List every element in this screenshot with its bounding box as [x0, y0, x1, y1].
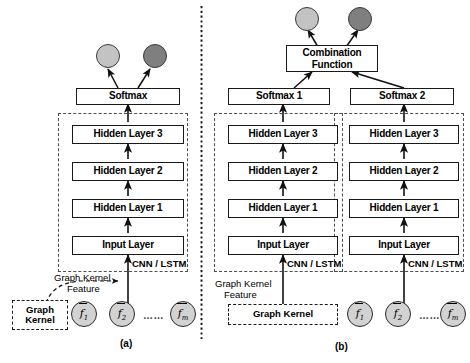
- feature-glyph-2-b: f2: [394, 307, 403, 322]
- hidden-layer-3-label-b-right: Hidden Layer 3: [370, 129, 439, 140]
- hidden-layer-3-box-b-right[interactable]: Hidden Layer 3: [349, 125, 459, 144]
- hidden-layer-2-label-a: Hidden Layer 2: [94, 166, 163, 177]
- arrow-b-softmax2-to-comb: [352, 72, 404, 88]
- feature-circle-2-a[interactable]: f2: [109, 301, 135, 327]
- feature-subscript-m-b: m: [452, 314, 459, 322]
- input-layer-box-b-left[interactable]: Input Layer: [228, 236, 338, 255]
- hidden-layer-2-label-b-left: Hidden Layer 2: [249, 166, 318, 177]
- graph-kernel-box-b-label: Graph Kernel: [253, 309, 313, 319]
- graph-kernel-feature-label-b-line2: Feature: [224, 289, 257, 300]
- feature-circle-m-a[interactable]: fm: [170, 301, 196, 327]
- tilde-bar-icon: [117, 303, 126, 304]
- hidden-layer-1-label-b-left: Hidden Layer 1: [249, 203, 318, 214]
- feature-subscript-1-a: 1: [84, 314, 88, 322]
- encoder-label-b-left: CNN / LSTM: [287, 258, 341, 269]
- combination-function-label-line1: Combination: [303, 47, 362, 58]
- tilde-bar-icon: [355, 303, 364, 304]
- arrow-b-softmax1-to-comb: [294, 72, 312, 88]
- input-layer-box-b-right[interactable]: Input Layer: [349, 236, 459, 255]
- feature-glyph-1-b: f1: [356, 307, 365, 322]
- softmax-2-label: Softmax 2: [379, 91, 425, 102]
- tilde-bar-icon: [177, 303, 188, 304]
- feature-glyph-2-a: f2: [118, 307, 127, 322]
- hidden-layer-3-label-a: Hidden Layer 3: [94, 129, 163, 140]
- feature-glyph-m-a: fm: [178, 307, 189, 322]
- softmax-1-box[interactable]: Softmax 1: [228, 88, 330, 105]
- hidden-layer-2-box-b-right[interactable]: Hidden Layer 2: [349, 162, 459, 181]
- graph-kernel-box-a-line2: Kernel: [25, 315, 55, 325]
- softmax-box-a[interactable]: Softmax: [76, 88, 180, 105]
- feature-glyph-1-a: f1: [80, 307, 89, 322]
- feature-ellipsis-a: ……: [143, 310, 164, 321]
- graph-kernel-box-a[interactable]: Graph Kernel: [12, 300, 68, 330]
- class-node-light: [96, 44, 120, 68]
- softmax-2-box[interactable]: Softmax 2: [350, 88, 454, 105]
- hidden-layer-1-label-b-right: Hidden Layer 1: [370, 203, 439, 214]
- hidden-layer-1-box-b-right[interactable]: Hidden Layer 1: [349, 199, 459, 218]
- feature-circle-1-b[interactable]: f1: [347, 301, 373, 327]
- input-layer-box-a[interactable]: Input Layer: [72, 236, 184, 255]
- feature-subscript-2-a: 2: [122, 314, 126, 322]
- softmax-1-label: Softmax 1: [256, 91, 302, 102]
- feature-subscript-1-b: 1: [360, 314, 364, 322]
- hidden-layer-3-box-b-left[interactable]: Hidden Layer 3: [228, 125, 338, 144]
- class-node-dark-b: [348, 7, 372, 31]
- figure-root: Softmax Hidden Layer 3 Hidden Layer 2 Hi…: [0, 0, 470, 363]
- caption-a: (a): [120, 338, 132, 349]
- input-layer-label-b-left: Input Layer: [257, 240, 309, 251]
- graph-kernel-feature-label-b-line1: Graph Kernel: [215, 278, 272, 289]
- tilde-bar-icon: [447, 303, 458, 304]
- feature-circle-2-b[interactable]: f2: [385, 301, 411, 327]
- graph-kernel-box-b[interactable]: Graph Kernel: [228, 304, 338, 325]
- tilde-bar-icon: [393, 303, 402, 304]
- feature-circle-1-a[interactable]: f1: [71, 301, 97, 327]
- hidden-layer-3-label-b-left: Hidden Layer 3: [249, 129, 318, 140]
- class-node-dark: [143, 44, 167, 68]
- hidden-layer-1-label-a: Hidden Layer 1: [94, 203, 163, 214]
- feature-subscript-2-b: 2: [398, 314, 402, 322]
- softmax-label-a: Softmax: [109, 91, 147, 102]
- feature-circle-m-b[interactable]: fm: [440, 301, 466, 327]
- hidden-layer-2-box-a[interactable]: Hidden Layer 2: [72, 162, 184, 181]
- input-layer-label-a: Input Layer: [102, 240, 154, 251]
- hidden-layer-2-box-b-left[interactable]: Hidden Layer 2: [228, 162, 338, 181]
- hidden-layer-2-label-b-right: Hidden Layer 2: [370, 166, 439, 177]
- input-layer-label-b-right: Input Layer: [378, 240, 430, 251]
- feature-glyph-m-b: fm: [448, 307, 459, 322]
- hidden-layer-1-box-b-left[interactable]: Hidden Layer 1: [228, 199, 338, 218]
- tilde-bar-icon: [79, 303, 88, 304]
- combination-function-box[interactable]: Combination Function: [286, 45, 378, 72]
- arrow-a-softmax-to-node-dark: [138, 69, 150, 88]
- class-node-light-b: [295, 7, 319, 31]
- encoder-label-b-right: CNN / LSTM: [408, 258, 462, 269]
- encoder-label-a: CNN / LSTM: [132, 258, 186, 269]
- hidden-layer-3-box-a[interactable]: Hidden Layer 3: [72, 125, 184, 144]
- combination-function-label-line2: Function: [312, 59, 353, 70]
- hidden-layer-1-box-a[interactable]: Hidden Layer 1: [72, 199, 184, 218]
- feature-subscript-m-a: m: [182, 314, 189, 322]
- feature-ellipsis-b: ……: [419, 310, 440, 321]
- caption-b: (b): [335, 341, 348, 352]
- graph-kernel-feature-label-a-line2: Feature: [67, 283, 100, 294]
- arrow-a-softmax-to-node-light: [108, 69, 118, 88]
- graph-kernel-feature-label-a-line1: Graph Kernel: [54, 272, 111, 283]
